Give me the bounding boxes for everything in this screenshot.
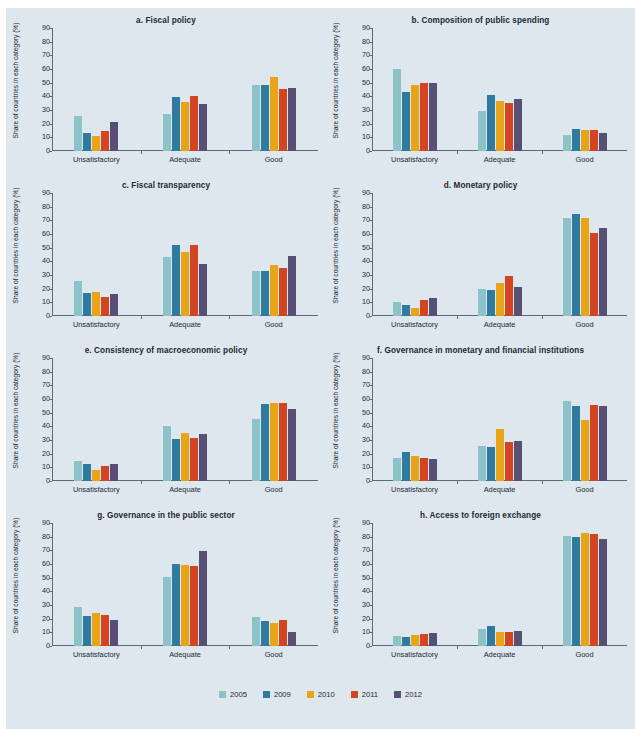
y-tick-label: 80 bbox=[340, 533, 370, 540]
plot-area-f: 0102030405060708090UnsatisfactoryAdequat… bbox=[372, 358, 627, 481]
legend-item-2009[interactable]: 2009 bbox=[263, 690, 291, 699]
x-tick-label: Adequate bbox=[141, 485, 230, 494]
y-tick-label: 50 bbox=[340, 574, 370, 581]
bar bbox=[172, 97, 180, 151]
bar bbox=[487, 95, 495, 151]
x-tick-label: Adequate bbox=[457, 155, 542, 164]
bar bbox=[288, 409, 296, 481]
x-axis-divider bbox=[457, 151, 458, 154]
bar bbox=[563, 218, 571, 316]
bar bbox=[74, 461, 82, 481]
x-tick-label: Unsatisfactory bbox=[52, 485, 141, 494]
bar bbox=[478, 111, 486, 151]
legend-item-2011[interactable]: 2011 bbox=[351, 690, 378, 699]
bar bbox=[572, 537, 580, 646]
bar-groups bbox=[52, 358, 318, 481]
bar bbox=[261, 404, 269, 481]
y-tick-mark bbox=[49, 481, 52, 482]
bar bbox=[599, 133, 607, 151]
legend-label: 2005 bbox=[230, 690, 247, 699]
bar-group bbox=[542, 28, 627, 151]
bar-group bbox=[372, 358, 457, 481]
bar bbox=[181, 252, 189, 316]
y-tick-mark bbox=[369, 316, 372, 317]
x-tick-label: Unsatisfactory bbox=[52, 155, 141, 164]
bar bbox=[487, 626, 495, 646]
bar-group bbox=[52, 193, 141, 316]
y-tick-label: 40 bbox=[340, 93, 370, 100]
bar bbox=[478, 446, 486, 481]
x-tick-label: Unsatisfactory bbox=[372, 650, 457, 659]
y-tick-label: 80 bbox=[340, 368, 370, 375]
bar bbox=[279, 268, 287, 316]
y-tick-label: 20 bbox=[340, 450, 370, 457]
bar bbox=[83, 293, 91, 316]
bar bbox=[270, 265, 278, 316]
legend-item-2012[interactable]: 2012 bbox=[394, 690, 422, 699]
y-tick-mark bbox=[369, 481, 372, 482]
chart-panel-b: b. Composition of public spendingShare o… bbox=[326, 8, 635, 173]
y-tick-label: 40 bbox=[340, 588, 370, 595]
y-axis-label-text: Share of countries in each category (%) bbox=[13, 23, 20, 139]
bar bbox=[101, 615, 109, 646]
y-tick-label: 50 bbox=[340, 244, 370, 251]
y-tick-label: 30 bbox=[340, 601, 370, 608]
legend-item-2010[interactable]: 2010 bbox=[307, 690, 335, 699]
bar bbox=[181, 565, 189, 646]
y-tick-label: 0 bbox=[20, 642, 50, 649]
chart-panel-f: f. Governance in monetary and financial … bbox=[326, 338, 635, 503]
x-tick-label: Good bbox=[229, 485, 318, 494]
bar bbox=[514, 441, 522, 481]
x-tick-label: Good bbox=[542, 320, 627, 329]
bar-group bbox=[542, 523, 627, 646]
x-axis-labels: UnsatisfactoryAdequateGood bbox=[372, 485, 627, 494]
bar bbox=[172, 564, 180, 646]
x-tick-label: Unsatisfactory bbox=[372, 485, 457, 494]
chart-title-f: f. Governance in monetary and financial … bbox=[326, 346, 635, 355]
bar-group bbox=[457, 193, 542, 316]
chart-panel-d: d. Monetary policyShare of countries in … bbox=[326, 173, 635, 338]
y-tick-label: 60 bbox=[340, 230, 370, 237]
bar bbox=[514, 631, 522, 646]
bar-group bbox=[52, 523, 141, 646]
bar bbox=[163, 114, 171, 151]
bar bbox=[478, 629, 486, 646]
x-tick-label: Good bbox=[229, 155, 318, 164]
legend-item-2005[interactable]: 2005 bbox=[219, 690, 247, 699]
bar-groups bbox=[52, 28, 318, 151]
x-axis-labels: UnsatisfactoryAdequateGood bbox=[372, 320, 627, 329]
bar bbox=[420, 458, 428, 481]
bar bbox=[420, 83, 428, 151]
y-tick-label: 20 bbox=[20, 450, 50, 457]
bar-group bbox=[141, 358, 230, 481]
bar bbox=[190, 245, 198, 316]
plot-area-h: 0102030405060708090UnsatisfactoryAdequat… bbox=[372, 523, 627, 646]
y-tick-label: 90 bbox=[340, 519, 370, 526]
x-tick-label: Adequate bbox=[457, 485, 542, 494]
bar-group bbox=[229, 193, 318, 316]
bar-groups bbox=[52, 193, 318, 316]
x-axis-divider bbox=[457, 316, 458, 319]
bar bbox=[572, 214, 580, 316]
y-tick-label: 50 bbox=[20, 409, 50, 416]
chart-title-c: c. Fiscal transparency bbox=[6, 181, 326, 190]
x-axis-divider bbox=[542, 646, 543, 649]
bar bbox=[411, 308, 419, 316]
y-tick-mark bbox=[49, 151, 52, 152]
y-tick-label: 20 bbox=[20, 120, 50, 127]
x-axis-divider bbox=[141, 316, 142, 319]
plot-area-e: 0102030405060708090UnsatisfactoryAdequat… bbox=[52, 358, 318, 481]
bar bbox=[270, 77, 278, 151]
x-tick-label: Unsatisfactory bbox=[52, 650, 141, 659]
legend-swatch-icon bbox=[394, 691, 401, 698]
x-tick-label: Adequate bbox=[141, 155, 230, 164]
bar bbox=[563, 536, 571, 646]
bar bbox=[581, 130, 589, 151]
x-tick-label: Unsatisfactory bbox=[372, 155, 457, 164]
chart-title-d: d. Monetary policy bbox=[326, 181, 635, 190]
x-axis-divider bbox=[229, 151, 230, 154]
bar bbox=[190, 96, 198, 151]
bar bbox=[252, 419, 260, 481]
bar-group bbox=[372, 28, 457, 151]
bar bbox=[393, 458, 401, 481]
